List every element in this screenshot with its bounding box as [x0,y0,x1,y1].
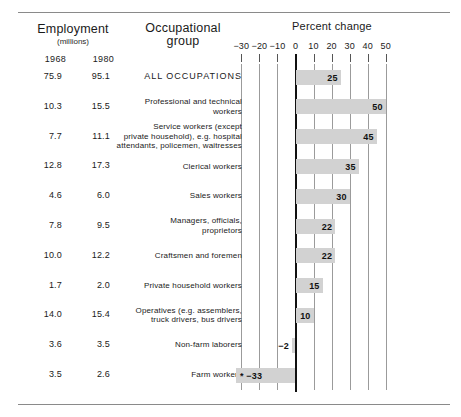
x-axis-label-10: 10 [308,41,318,51]
employment-1968-value: 7.8 [14,220,62,230]
bar-value-label: 45 [363,132,373,142]
chart-figure: Employment (millions) Occupationalgroup … [0,0,461,417]
x-axis-label-20: 20 [326,41,336,51]
employment-1968-value: 4.6 [14,190,62,200]
employment-1968-value: 14.0 [14,309,62,319]
x-axis-tick-mark [295,54,297,62]
x-axis-tick-mark [277,54,278,62]
chart-row: 10.315.5Professional and technicalworker… [0,92,461,122]
occupational-group-label: Sales workers [96,191,242,201]
occupational-group-label: Clerical workers [96,162,242,172]
x-axis-label-30: 30 [344,41,354,51]
chart-row: 1.72.0Private household workers15 [0,271,461,301]
x-axis-label-neg30: −30 [233,41,249,51]
occupational-group-label: Non-farm laborers [96,340,242,350]
x-axis-tick-mark [368,54,369,62]
chart-row: 75.995.1ALL OCCUPATIONS25 [0,62,461,92]
bar-value-label: * −33 [240,371,262,381]
chart-row: 7.711.1Service workers (exceptprivate ho… [0,122,461,152]
top-divider [18,12,450,13]
chart-row: 7.89.5Managers, officials,proprietors22 [0,211,461,241]
x-axis-tick-mark [259,54,260,62]
x-axis-tick-labels: −30−20−1001020304050 [0,41,461,55]
x-axis-label-neg10: −10 [270,41,286,51]
chart-row: 14.015.4Operatives (e.g. assemblers,truc… [0,300,461,330]
employment-1968-value: 10.0 [14,250,62,260]
x-axis-tick-mark [314,54,315,62]
occupational-group-label: Professional and technicalworkers [96,97,242,116]
bar-value-label: 22 [322,222,332,232]
data-bar [292,338,296,353]
occupational-group-label: Service workers (exceptprivate household… [96,122,242,151]
bar-value-text: −33 [246,371,262,381]
x-axis-label-50: 50 [381,41,391,51]
employment-1968-value: 12.8 [14,160,62,170]
x-axis-tick-mark [386,54,387,62]
x-axis-tick-mark [350,54,351,62]
occupational-group-label: ALL OCCUPATIONS [96,72,242,82]
bar-value-label: 35 [345,162,355,172]
bar-value-label: 30 [336,192,346,202]
percent-change-column-title: Percent change [252,20,412,32]
chart-row: 10.012.2Craftsmen and foremen22 [0,241,461,271]
occupational-group-label: Managers, officials,proprietors [96,216,242,235]
bottom-divider [18,404,450,405]
occupational-group-label: Craftsmen and foremen [96,251,242,261]
x-axis-label-40: 40 [362,41,372,51]
occupational-group-label: Farm workers [96,370,242,380]
bar-value-label: 25 [327,73,337,83]
bar-value-label: 50 [372,102,382,112]
chart-row: 3.52.6Farm workers* −33 [0,360,461,390]
bar-value-label: 15 [309,281,319,291]
chart-row: 3.63.5Non-farm laborers−2 [0,330,461,360]
x-axis-tick-mark [241,54,242,62]
employment-column-title: Employment [18,22,128,36]
employment-1968-value: 3.5 [14,369,62,379]
bar-value-label: 10 [300,311,310,321]
chart-row: 4.66.0Sales workers30 [0,181,461,211]
employment-1968-value: 3.6 [14,339,62,349]
bar-value-label: −2 [278,341,289,351]
x-axis-label-neg20: −20 [251,41,267,51]
employment-1968-value: 1.7 [14,280,62,290]
employment-1968-value: 75.9 [14,71,62,81]
bar-value-label: 22 [322,251,332,261]
occupational-group-label: Private household workers [96,281,242,291]
x-axis-label-0: 0 [293,41,298,51]
employment-1968-value: 7.7 [14,131,62,141]
chart-row: 12.817.3Clerical workers35 [0,151,461,181]
employment-1968-value: 10.3 [14,101,62,111]
x-axis-tick-mark [332,54,333,62]
occupational-group-label: Operatives (e.g. assemblers,truck driver… [96,306,242,325]
